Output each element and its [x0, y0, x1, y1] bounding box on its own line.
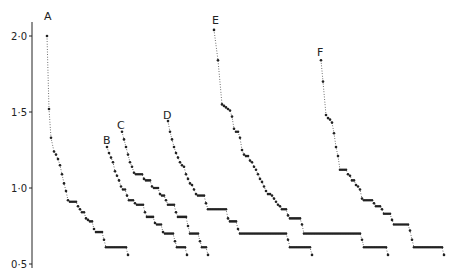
- data-point: [152, 216, 155, 219]
- data-point: [173, 203, 176, 206]
- data-point: [257, 173, 260, 176]
- data-point: [185, 216, 188, 219]
- data-point: [287, 214, 290, 217]
- data-point: [205, 246, 208, 249]
- data-point: [108, 152, 111, 155]
- y-tick-label: 1·0: [11, 183, 27, 194]
- data-point: [179, 161, 182, 164]
- data-point: [187, 225, 190, 228]
- data-point: [53, 150, 56, 153]
- data-point: [127, 153, 130, 156]
- data-point: [320, 59, 323, 62]
- data-point: [259, 178, 262, 181]
- data-point: [205, 202, 208, 205]
- data-point: [285, 232, 288, 235]
- data-point: [311, 254, 314, 257]
- data-point: [112, 161, 115, 164]
- data-point: [118, 179, 121, 182]
- data-point: [391, 219, 394, 222]
- data-point: [387, 254, 390, 257]
- data-point: [184, 246, 187, 249]
- data-point: [191, 184, 194, 187]
- data-point: [361, 238, 364, 241]
- series-line: [321, 60, 444, 255]
- data-point: [237, 131, 240, 134]
- data-point: [197, 232, 200, 235]
- data-point: [174, 240, 177, 243]
- data-point: [241, 149, 244, 152]
- series-label: B: [103, 134, 111, 147]
- step-curves-chart: 2·01·51·00·5 ABCDEF: [0, 0, 467, 279]
- y-axis: 2·01·51·00·5: [11, 22, 32, 270]
- data-point: [237, 228, 240, 231]
- data-point: [46, 35, 49, 38]
- data-point: [160, 223, 163, 226]
- data-point: [171, 138, 174, 141]
- data-point: [144, 211, 147, 214]
- data-point: [253, 165, 256, 168]
- data-point: [129, 161, 132, 164]
- data-point: [57, 158, 60, 161]
- data-point: [175, 152, 178, 155]
- data-point: [203, 194, 206, 197]
- data-point: [409, 229, 412, 232]
- series-label: D: [163, 109, 171, 122]
- data-point: [172, 232, 175, 235]
- data-point: [125, 146, 128, 149]
- data-point: [309, 246, 312, 249]
- data-point: [116, 175, 119, 178]
- series-group: ABCDEF: [44, 10, 445, 256]
- data-point: [441, 246, 444, 249]
- data-point: [287, 238, 290, 241]
- data-point: [120, 185, 123, 188]
- series-label: F: [317, 46, 323, 59]
- data-point: [50, 137, 53, 140]
- data-point: [187, 178, 190, 181]
- series-label: A: [44, 10, 52, 23]
- data-point: [110, 156, 113, 159]
- data-point: [217, 59, 220, 62]
- data-point: [335, 146, 338, 149]
- data-point: [48, 108, 51, 111]
- data-point: [163, 194, 166, 197]
- series-c: C: [117, 119, 209, 256]
- y-tick-label: 2·0: [11, 31, 27, 42]
- data-point: [213, 29, 216, 32]
- data-point: [263, 185, 266, 188]
- data-point: [353, 179, 356, 182]
- data-point: [229, 109, 232, 112]
- data-point: [124, 188, 127, 191]
- data-point: [331, 121, 334, 124]
- series-label: C: [117, 119, 125, 132]
- series-line: [107, 147, 187, 255]
- data-point: [371, 199, 374, 202]
- data-point: [271, 194, 274, 197]
- data-point: [101, 231, 104, 234]
- data-point: [231, 115, 234, 118]
- data-point: [357, 185, 360, 188]
- data-point: [149, 179, 152, 182]
- data-point: [381, 208, 384, 211]
- data-point: [345, 169, 348, 172]
- data-point: [333, 132, 336, 135]
- data-point: [279, 205, 282, 208]
- data-point: [443, 254, 446, 257]
- data-point: [255, 169, 258, 172]
- data-point: [59, 164, 62, 167]
- data-point: [385, 246, 388, 249]
- data-point: [265, 190, 268, 193]
- data-point: [251, 161, 254, 164]
- data-point: [349, 175, 352, 178]
- data-point: [132, 199, 135, 202]
- data-point: [142, 203, 145, 206]
- data-point: [275, 200, 278, 203]
- y-tick-label: 1·5: [11, 107, 27, 118]
- data-point: [379, 205, 382, 208]
- data-point: [173, 146, 176, 149]
- data-point: [273, 197, 276, 200]
- data-point: [337, 155, 340, 158]
- data-point: [261, 181, 264, 184]
- data-point: [185, 173, 188, 176]
- data-point: [175, 211, 178, 214]
- data-point: [125, 246, 128, 249]
